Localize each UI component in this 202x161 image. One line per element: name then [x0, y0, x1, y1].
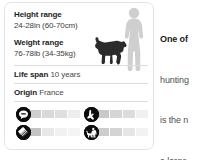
rating-shedding-level	[84, 105, 148, 123]
rating-segment	[110, 110, 122, 118]
stat-value: 24-28in (60-70cm)	[14, 20, 109, 31]
stat-weight-range: Weight range 76-78lb (34-35kg)	[14, 38, 109, 59]
rating-bar	[97, 110, 148, 118]
stat-value: 76-78lb (34-35kg)	[14, 48, 109, 59]
dog-and-handler-icon	[84, 125, 99, 140]
row-origin: Origin France	[14, 84, 148, 101]
rating-grooming-needs	[16, 123, 80, 141]
rating-segment	[136, 110, 148, 118]
rating-segment	[123, 128, 135, 136]
rating-bar	[97, 128, 148, 136]
rating-segment	[68, 110, 80, 118]
stat-height-range: Height range 24-28in (60-70cm)	[14, 10, 109, 31]
row-label: Origin	[14, 88, 37, 97]
breed-info-panel: Height range 24-28in (60-70cm) Weight ra…	[0, 0, 202, 160]
description-line: a large	[160, 155, 202, 161]
rating-segment	[55, 110, 67, 118]
description-line: is the n	[160, 114, 202, 128]
rating-segment	[55, 128, 67, 136]
row-divider	[14, 101, 148, 102]
rating-bar	[29, 128, 80, 136]
rating-segment	[123, 110, 135, 118]
stat-label: Height range	[14, 10, 109, 20]
grooming-brush-icon	[16, 125, 31, 140]
rating-vocal-tendency	[16, 105, 80, 123]
breed-detail-rows: Life span 10 years Origin France	[14, 65, 148, 102]
breed-measurements: Height range 24-28in (60-70cm) Weight ra…	[14, 10, 109, 66]
dog-head-icon	[84, 107, 99, 122]
speech-bubble-icon	[16, 107, 31, 122]
description-line: hunting	[160, 74, 202, 88]
breed-trait-ratings	[16, 105, 150, 141]
breed-fact-card: Height range 24-28in (60-70cm) Weight ra…	[4, 2, 154, 150]
description-line: One of	[160, 33, 202, 47]
breed-description-text: One of hunting is the n a large trainab …	[160, 6, 202, 160]
row-value: France	[39, 88, 63, 97]
rating-segment	[42, 110, 54, 118]
row-label: Life span	[14, 70, 48, 79]
rating-bar	[29, 110, 80, 118]
rating-segment	[110, 128, 122, 136]
rating-segment	[68, 128, 80, 136]
row-life-span: Life span 10 years	[14, 66, 148, 83]
rating-segment	[136, 128, 148, 136]
rating-segment	[42, 128, 54, 136]
row-value: 10 years	[50, 70, 80, 79]
stat-label: Weight range	[14, 38, 109, 48]
rating-trainability	[84, 123, 148, 141]
